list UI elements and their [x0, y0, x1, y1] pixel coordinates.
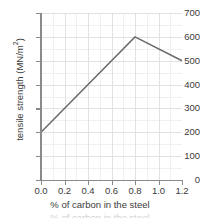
y-axis-label: tensile strength (MN/m2)	[14, 5, 25, 175]
tensile-strength-polyline	[41, 37, 182, 132]
x-axis-tick-label: 1.2	[167, 186, 197, 196]
data-series-line	[41, 13, 182, 180]
chart-figure: tensile strength (MN/m2) 010020030040050…	[0, 0, 200, 218]
y-axis-label-text: tensile strength (MN/m	[14, 45, 25, 141]
cropped-caption: % of carbon in the steel	[0, 212, 200, 218]
y-axis-label-superscript: 2	[12, 41, 19, 45]
y-axis-spine	[40, 13, 42, 181]
x-axis-label: % of carbon in the steel	[0, 199, 200, 210]
plot-area	[41, 13, 182, 180]
y-axis-label-suffix: )	[14, 38, 25, 41]
